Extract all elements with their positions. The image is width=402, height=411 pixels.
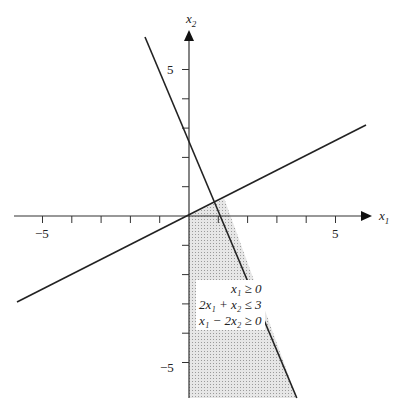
y-axis-label: x2 [185, 11, 197, 29]
feasible-region-diagram: −5 5 5 −5 x1 x2 [0, 0, 402, 411]
x-tick-label-neg5: −5 [35, 226, 49, 241]
x-axis-arrow-icon [361, 211, 372, 221]
y-tick-label-5: 5 [167, 62, 174, 77]
constraint-3: x₁ − 2x₂ ≥ 0 [199, 313, 262, 329]
constraints-label: x₁ ≥ 0 2x₁ + x₂ ≤ 3 x₁ − 2x₂ ≥ 0 [196, 280, 265, 330]
constraint-1: x₁ ≥ 0 [199, 281, 262, 297]
x-tick-label-5: 5 [332, 226, 339, 241]
y-tick-label-neg5: −5 [160, 360, 174, 375]
y-axis-arrow-icon [184, 30, 194, 41]
constraint-2: 2x₁ + x₂ ≤ 3 [199, 297, 262, 313]
x-axis-label: x1 [378, 208, 389, 226]
